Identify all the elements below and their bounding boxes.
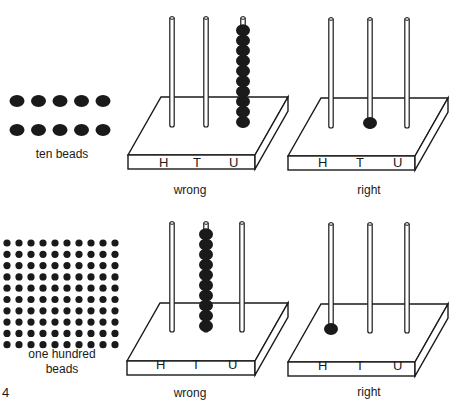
loose-bead xyxy=(111,251,118,258)
loose-bead xyxy=(63,330,70,337)
loose-bead xyxy=(3,239,10,246)
caption-wrong-1: wrong xyxy=(160,183,220,198)
loose-bead xyxy=(63,262,70,269)
loose-bead xyxy=(39,262,46,269)
loose-bead xyxy=(31,95,46,107)
rod-h-2b xyxy=(329,223,333,332)
loose-bead xyxy=(27,296,34,303)
caption-right-1: right xyxy=(339,183,399,198)
rod-t-1a xyxy=(204,17,208,127)
loose-bead xyxy=(63,251,70,258)
hundred-beads-caption-line1: one hundred xyxy=(10,347,114,362)
loose-bead xyxy=(87,273,94,280)
loose-bead xyxy=(99,330,106,337)
rod-h-2a-cap xyxy=(170,222,174,225)
loose-bead xyxy=(51,239,58,246)
loose-bead xyxy=(99,319,106,326)
loose-bead xyxy=(74,124,89,136)
loose-bead xyxy=(27,307,34,314)
rod-u-2a xyxy=(240,222,244,332)
hundred-beads-caption-line2: beads xyxy=(10,362,114,377)
rod-t-1a-cap xyxy=(204,17,208,20)
rod-t-2b xyxy=(368,223,372,333)
loose-bead xyxy=(111,319,118,326)
rod-h-2a xyxy=(170,222,174,332)
bead-1a xyxy=(236,106,250,118)
loose-bead xyxy=(87,330,94,337)
loose-bead xyxy=(39,319,46,326)
loose-bead xyxy=(27,273,34,280)
bead-1a xyxy=(236,24,250,36)
loose-bead xyxy=(111,262,118,269)
label-u-2b: U xyxy=(393,358,402,373)
loose-bead xyxy=(96,95,111,107)
rod-u-1b-cap xyxy=(405,18,409,21)
loose-bead xyxy=(15,262,22,269)
rod-u-2b xyxy=(405,223,409,333)
rod-t-1b-cap xyxy=(368,18,372,21)
rod-h-1a xyxy=(170,17,174,127)
rod-h-1b xyxy=(329,18,333,128)
loose-bead xyxy=(51,273,58,280)
loose-bead xyxy=(75,239,82,246)
label-h-2a: H xyxy=(156,357,165,372)
loose-bead xyxy=(63,285,70,292)
bead-2b xyxy=(324,323,338,335)
bead-1b xyxy=(363,117,377,129)
loose-bead xyxy=(63,307,70,314)
loose-bead xyxy=(10,95,25,107)
rod-u-2b-cap xyxy=(405,223,409,226)
loose-bead xyxy=(15,307,22,314)
loose-bead xyxy=(111,330,118,337)
loose-bead xyxy=(31,124,46,136)
loose-bead xyxy=(99,262,106,269)
ten-beads-caption: ten beads xyxy=(10,147,114,162)
label-h-1b: H xyxy=(318,155,327,170)
loose-bead xyxy=(3,251,10,258)
loose-bead xyxy=(75,319,82,326)
loose-bead xyxy=(3,285,10,292)
loose-bead xyxy=(99,251,106,258)
loose-bead xyxy=(15,273,22,280)
loose-bead xyxy=(75,285,82,292)
loose-bead xyxy=(3,307,10,314)
bead-1a xyxy=(236,85,250,97)
loose-bead xyxy=(15,296,22,303)
loose-bead xyxy=(75,307,82,314)
loose-bead xyxy=(99,239,106,246)
rod-t-2b-cap xyxy=(368,223,372,226)
label-t-1b: T xyxy=(356,155,364,170)
caption-wrong-2: wrong xyxy=(160,386,220,401)
loose-bead xyxy=(51,251,58,258)
loose-bead xyxy=(3,330,10,337)
loose-bead xyxy=(27,285,34,292)
caption-right-2: right xyxy=(339,385,399,400)
loose-bead xyxy=(87,307,94,314)
loose-bead xyxy=(75,330,82,337)
loose-bead xyxy=(75,251,82,258)
loose-bead xyxy=(51,330,58,337)
loose-bead xyxy=(15,330,22,337)
loose-bead xyxy=(63,319,70,326)
label-t-2a: T xyxy=(192,357,200,372)
loose-bead xyxy=(27,262,34,269)
loose-bead xyxy=(3,262,10,269)
loose-bead xyxy=(3,273,10,280)
loose-bead xyxy=(87,296,94,303)
rod-h-1a-cap xyxy=(170,17,174,20)
loose-bead xyxy=(87,319,94,326)
label-t-1a: T xyxy=(193,155,201,170)
loose-bead xyxy=(15,251,22,258)
bead-2a xyxy=(199,228,213,240)
rod-u-1b xyxy=(405,18,409,128)
label-t-2b: T xyxy=(356,358,364,373)
loose-bead xyxy=(99,273,106,280)
rod-h-1b-cap xyxy=(329,18,333,21)
label-h-1a: H xyxy=(159,155,168,170)
loose-bead xyxy=(75,273,82,280)
loose-bead xyxy=(111,285,118,292)
loose-bead xyxy=(111,296,118,303)
loose-bead xyxy=(51,307,58,314)
loose-bead xyxy=(87,285,94,292)
loose-bead xyxy=(10,124,25,136)
